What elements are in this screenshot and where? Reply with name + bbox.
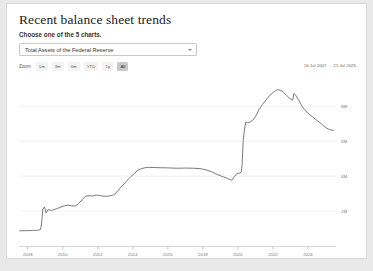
range-button-1m[interactable]: 1m (36, 62, 48, 71)
x-axis-tick-label: 2018 (198, 252, 208, 257)
y-axis-tick-label: 4M (341, 174, 347, 179)
chart-series-line (20, 90, 334, 231)
x-axis-tick-label: 2012 (93, 252, 103, 257)
chart-select[interactable]: Total Assets of the Federal Reserve (19, 43, 197, 56)
card-subtitle: Choose one of the 5 charts. (19, 31, 102, 38)
range-button-1y[interactable]: 1y (102, 62, 113, 71)
range-button-3m[interactable]: 3m (52, 62, 64, 71)
chart-plot-area: 2M4M6M8M (19, 80, 354, 246)
y-axis-tick-label: 2M (341, 209, 347, 214)
page-root: Recent balance sheet trends Choose one o… (0, 0, 373, 271)
chart-x-axis: 200820102012201420162018202020222024 (19, 246, 354, 259)
x-axis-tick-label: 2010 (58, 252, 68, 257)
date-range-display: 16 Jul 2007 → 21 Jul 2025 (304, 63, 356, 68)
range-button-all[interactable]: All (117, 62, 128, 71)
x-axis-tick-label: 2016 (163, 252, 173, 257)
chart-select-value: Total Assets of the Federal Reserve (25, 47, 113, 53)
x-axis-tick-label: 2008 (23, 252, 33, 257)
y-axis-tick-label: 8M (341, 104, 347, 109)
x-axis-svg: 200820102012201420162018202020222024 (19, 246, 354, 259)
x-axis-tick-label: 2014 (128, 252, 138, 257)
range-button-ytd[interactable]: YTD (84, 62, 99, 71)
chart-card: Recent balance sheet trends Choose one o… (6, 3, 367, 259)
range-selector-label: Zoom (19, 64, 32, 69)
y-axis-tick-label: 6M (341, 139, 347, 144)
page-title: Recent balance sheet trends (19, 12, 171, 28)
chevron-down-icon (188, 49, 192, 51)
range-button-6m[interactable]: 6m (68, 62, 80, 71)
chart-svg: 2M4M6M8M (19, 80, 354, 246)
range-selector: Zoom 1m 3m 6m YTD 1y All (19, 61, 128, 72)
x-axis-tick-label: 2020 (233, 252, 243, 257)
x-axis-tick-label: 2024 (303, 252, 313, 257)
x-axis-tick-label: 2022 (268, 252, 278, 257)
